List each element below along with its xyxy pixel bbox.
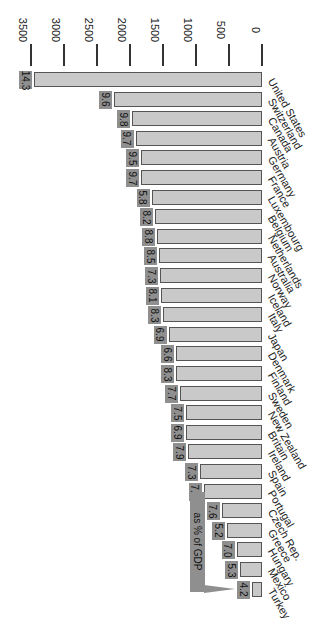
bar <box>176 366 262 381</box>
gdp-percent-badge: 8.3 <box>148 306 161 324</box>
axis-tick-label: 0 <box>250 27 262 33</box>
axis-tick <box>63 44 65 66</box>
gdp-percent-value: 14.3 <box>20 70 31 89</box>
bar <box>132 111 262 126</box>
gdp-percent-badge: 7.9 <box>173 443 186 461</box>
gdp-percent-value: 8.3 <box>162 367 173 381</box>
rotated-bar-chart: 0500100015002000250030003500 14.3United … <box>0 0 335 624</box>
axis-tick <box>228 44 230 66</box>
axis-tick-label: 2500 <box>83 18 95 42</box>
bar <box>34 72 262 87</box>
gdp-percent-value: 7.9 <box>174 445 185 459</box>
gdp-percent-value: 7.0 <box>223 543 234 557</box>
gdp-percent-value: 9.7 <box>127 171 138 185</box>
bar <box>141 150 262 165</box>
gdp-percent-badge: 7.3 <box>185 463 198 481</box>
gdp-percent-value: 8.5 <box>145 249 156 263</box>
gdp-percent-badge: 6.9 <box>154 326 167 344</box>
axis-tick-label: 2000 <box>116 18 128 42</box>
gdp-percent-value: 6.9 <box>155 328 166 342</box>
bar <box>240 562 262 577</box>
axis-tick <box>129 44 131 66</box>
axis-tick <box>30 44 32 66</box>
bar <box>161 288 262 303</box>
bar <box>114 92 262 107</box>
annotation-text: as % of GDP <box>192 513 203 571</box>
axis-tick <box>96 44 98 66</box>
gdp-percent-value: 7.6 <box>208 504 219 518</box>
axis-tick-label: 500 <box>215 21 227 39</box>
bar <box>222 503 262 518</box>
gdp-percent-value: 8.1 <box>147 289 158 303</box>
gdp-percent-badge: 8.2 <box>140 208 153 226</box>
bar <box>176 346 262 361</box>
gdp-percent-value: 5.2 <box>213 524 224 538</box>
bar <box>200 464 262 479</box>
gdp-percent-badge: 6.9 <box>171 424 184 442</box>
bar <box>204 484 262 499</box>
annotation-pointer <box>204 585 235 593</box>
gdp-percent-badge: 8.1 <box>146 287 159 305</box>
axis-tick-label: 3500 <box>17 18 29 42</box>
annotation-box: as % of GDP <box>190 492 205 592</box>
gdp-percent-value: 9.8 <box>118 112 129 126</box>
bar <box>169 327 262 342</box>
bar <box>186 405 262 420</box>
gdp-percent-value: 7.3 <box>186 465 197 479</box>
gdp-percent-badge: 9.7 <box>126 169 139 187</box>
gdp-percent-value: 7.3 <box>146 269 157 283</box>
axis-tick <box>195 44 197 66</box>
gdp-percent-badge: 7.7 <box>165 385 178 403</box>
gdp-percent-value: 5.8 <box>138 191 149 205</box>
gdp-percent-badge: 14.3 <box>19 71 32 89</box>
bar <box>180 386 262 401</box>
gdp-percent-value: 8.2 <box>141 210 152 224</box>
gdp-percent-badge: 8.8 <box>142 228 155 246</box>
axis-tick-label: 3000 <box>50 18 62 42</box>
gdp-percent-badge: 7.0 <box>222 541 235 559</box>
gdp-percent-value: 5.3 <box>226 563 237 577</box>
gdp-percent-badge: 7.5 <box>171 404 184 422</box>
gdp-percent-badge: 5.3 <box>225 561 238 579</box>
gdp-percent-badge: 5.2 <box>212 522 225 540</box>
gdp-percent-value: 4.2 <box>238 583 249 597</box>
gdp-percent-badge: 8.3 <box>161 365 174 383</box>
bar <box>160 268 262 283</box>
axis-tick <box>261 44 263 66</box>
axis-tick <box>162 44 164 66</box>
axis-tick-label: 1500 <box>149 18 161 42</box>
bar <box>163 307 262 322</box>
bar <box>159 248 262 263</box>
gdp-percent-badge: 9.7 <box>121 130 134 148</box>
gdp-percent-value: 8.8 <box>143 230 154 244</box>
gdp-percent-badge: 7.6 <box>207 502 220 520</box>
bar <box>141 170 262 185</box>
bar <box>188 444 262 459</box>
bar <box>136 131 262 146</box>
gdp-percent-badge: 9.5 <box>126 149 139 167</box>
bar <box>237 542 262 557</box>
gdp-percent-badge: 9.6 <box>99 91 112 109</box>
gdp-percent-value: 9.7 <box>122 132 133 146</box>
gdp-percent-badge: 4.2 <box>237 581 250 599</box>
bar <box>252 582 262 597</box>
gdp-percent-value: 7.7 <box>166 387 177 401</box>
gdp-percent-value: 9.5 <box>127 151 138 165</box>
gdp-percent-value: 6.9 <box>172 426 183 440</box>
gdp-percent-badge: 8.5 <box>144 247 157 265</box>
gdp-percent-badge: 9.8 <box>117 110 130 128</box>
bar <box>157 229 262 244</box>
gdp-percent-badge: 7.3 <box>145 267 158 285</box>
bar <box>227 523 262 538</box>
gdp-percent-badge: 6.6 <box>161 345 174 363</box>
axis-tick-label: 1000 <box>182 18 194 42</box>
bar <box>152 190 262 205</box>
gdp-percent-value: 6.6 <box>162 347 173 361</box>
gdp-percent-value: 8.3 <box>149 308 160 322</box>
gdp-percent-value: 7.5 <box>172 406 183 420</box>
gdp-percent-badge: 5.8 <box>137 189 150 207</box>
bar <box>155 209 262 224</box>
bar <box>186 425 262 440</box>
gdp-percent-value: 9.6 <box>100 93 111 107</box>
